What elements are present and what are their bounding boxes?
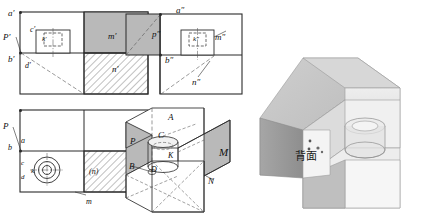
side-view-point-a bbox=[159, 13, 162, 16]
label-p-dprime: p″ bbox=[152, 30, 160, 39]
solid-detail-dot-1 bbox=[309, 140, 312, 143]
drawing-canvas bbox=[0, 0, 424, 219]
label-b-dprime: b″ bbox=[165, 56, 173, 65]
label-n-dprime: n″ bbox=[192, 78, 200, 87]
label-k-prime: k′ bbox=[42, 36, 47, 43]
iso-lower-block bbox=[126, 161, 204, 212]
label-b-iso: B bbox=[129, 162, 135, 171]
technical-drawing-figure: a′ P′ b′ c′ k′ d′ m′ n′ a″ p″ b″ k″ m″ n… bbox=[0, 0, 424, 219]
label-m-dprime: m″ bbox=[215, 33, 225, 42]
label-k-iso: K bbox=[168, 152, 173, 160]
solid-front-block-face bbox=[345, 160, 400, 208]
label-n-prime: n′ bbox=[112, 65, 118, 74]
label-back-face-note: 背面 bbox=[295, 151, 317, 162]
label-n-iso: N bbox=[208, 177, 214, 186]
label-a-top: a bbox=[21, 137, 25, 145]
label-m-prime: m′ bbox=[108, 32, 116, 41]
label-m-top: m bbox=[86, 198, 92, 206]
label-p-iso: P bbox=[130, 137, 136, 146]
label-a-iso: A bbox=[168, 113, 174, 122]
label-n-top: (n) bbox=[89, 168, 98, 176]
label-k-top: k bbox=[31, 168, 34, 175]
label-d-prime: d′ bbox=[25, 62, 31, 70]
label-c-prime: c′ bbox=[30, 26, 35, 34]
label-p-prime: P′ bbox=[3, 33, 10, 42]
shaded-solid-group bbox=[260, 58, 400, 208]
label-m-iso: M bbox=[219, 147, 228, 158]
solid-cylinder-bore-top bbox=[352, 121, 378, 131]
axonometric-wireframe-group bbox=[126, 108, 230, 212]
label-a-dprime: a″ bbox=[176, 6, 184, 15]
label-k-dprime: k″ bbox=[193, 36, 199, 43]
label-b-prime: b′ bbox=[8, 55, 14, 64]
front-view-point-a bbox=[19, 11, 22, 14]
label-b-top: b bbox=[8, 144, 12, 152]
top-view-point-b bbox=[19, 150, 22, 153]
label-d-iso: D bbox=[151, 166, 157, 174]
label-c-iso: C bbox=[158, 131, 164, 140]
label-p-top: P bbox=[3, 122, 9, 131]
label-a-prime: a′ bbox=[8, 9, 14, 18]
solid-detail-dot-4 bbox=[321, 151, 323, 153]
top-view-point-corner bbox=[19, 109, 22, 112]
side-view-point-b bbox=[159, 54, 162, 57]
front-view-point-b bbox=[19, 52, 22, 55]
label-d-top: d bbox=[21, 174, 25, 181]
label-c-top: c bbox=[21, 160, 24, 167]
